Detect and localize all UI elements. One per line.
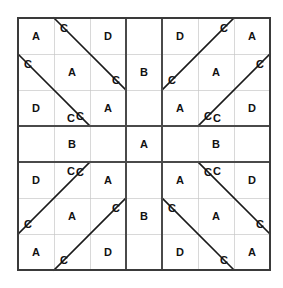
cell-letter-r0-c6: A [248, 30, 256, 42]
cell-letter-r6-c0: A [32, 246, 40, 258]
cell-letter-r0-c4: D [176, 30, 184, 42]
cell-letter-r6-c4: D [176, 246, 184, 258]
cell-letter-r1-c5: A [212, 66, 220, 78]
cell-letter-extra-bl-upper-c: C [67, 165, 75, 177]
cell-letter-r5-c1: A [68, 210, 76, 222]
cell-letter-r0-c5: C [220, 22, 228, 34]
cell-letter-r4-c4: A [176, 174, 184, 186]
cell-letter-r2-c1: C [76, 110, 84, 122]
cell-letter-r5-c2: C [112, 202, 120, 214]
cell-letter-extra-br-upper-c: C [213, 165, 221, 177]
cell-letter-r0-c1: C [60, 22, 68, 34]
cell-letter-r1-c3: B [140, 66, 148, 78]
cell-letter-r0-c0: A [32, 30, 40, 42]
cell-letter-r4-c2: A [104, 174, 112, 186]
cell-letter-r2-c0: D [32, 102, 40, 114]
cell-letter-r2-c4: A [176, 102, 184, 114]
cell-letter-extra-tr-lower-c: C [213, 112, 221, 124]
cell-letter-r6-c5: C [220, 254, 228, 266]
cell-letter-r2-c6: D [248, 102, 256, 114]
cell-letter-r5-c5: A [212, 210, 220, 222]
cell-letter-r4-c5: C [204, 166, 212, 178]
cell-letter-r6-c2: D [104, 246, 112, 258]
cell-letter-r1-c2: C [112, 74, 120, 86]
cell-letter-r2-c5: C [204, 110, 212, 122]
cell-letter-r1-c4: C [168, 74, 176, 86]
cell-letter-r4-c1: C [76, 166, 84, 178]
cell-letter-r1-c0: C [24, 58, 32, 70]
cell-letter-r3-c5: B [212, 138, 220, 150]
cell-letter-r1-c1: A [68, 66, 76, 78]
cell-letter-r2-c2: A [104, 102, 112, 114]
cell-letter-r4-c6: D [248, 174, 256, 186]
cell-letter-extra-tl-lower-c: C [67, 112, 75, 124]
cell-letter-r5-c0: C [24, 218, 32, 230]
quilt-diagram: ACDDCACACBCACDCAACDBABDCAACDCACBCACACDDC… [0, 0, 283, 288]
cell-letter-r6-c1: C [60, 254, 68, 266]
cell-letter-r1-c6: C [256, 58, 264, 70]
cell-letter-r3-c3: A [140, 138, 148, 150]
cell-letter-r5-c6: C [256, 218, 264, 230]
cell-letter-r0-c2: D [104, 30, 112, 42]
cell-letter-r5-c3: B [140, 210, 148, 222]
cell-letter-r6-c6: A [248, 246, 256, 258]
cell-letter-r3-c1: B [68, 138, 76, 150]
quilt-canvas: ACDDCACACBCACDCAACDBABDCAACDCACBCACACDDC… [0, 0, 283, 288]
cell-letter-r5-c4: C [168, 202, 176, 214]
cell-letter-r4-c0: D [32, 174, 40, 186]
